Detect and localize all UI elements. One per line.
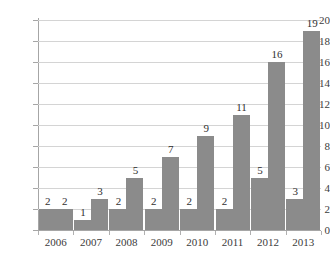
bar-group: 27 [145, 20, 179, 230]
bar-group: 22 [39, 20, 73, 230]
bar [286, 199, 303, 231]
bar-value-label: 19 [301, 18, 323, 29]
bar-value-label: 9 [195, 123, 217, 134]
bar-value-label: 2 [54, 196, 76, 207]
x-axis-category-label: 2013 [276, 236, 330, 248]
x-axis-tick-mark [250, 231, 251, 235]
x-axis-tick-mark [38, 231, 39, 235]
bars-container: 2213252729211516319 [38, 20, 321, 230]
bar [268, 62, 285, 230]
bar-group: 319 [286, 20, 320, 230]
bar-value-label: 3 [89, 186, 111, 197]
bar [233, 115, 250, 231]
bar [74, 220, 91, 231]
bar [39, 209, 56, 230]
bar-group: 516 [251, 20, 285, 230]
x-axis-tick-mark [109, 231, 110, 235]
bar [180, 209, 197, 230]
bar-value-label: 7 [160, 144, 182, 155]
x-axis-tick-mark [73, 231, 74, 235]
bar [56, 209, 73, 230]
bar [145, 209, 162, 230]
x-axis-tick-mark [286, 231, 287, 235]
bar-chart: 02468101214161820 2213252729211516319 20… [0, 0, 330, 254]
bar-group: 25 [109, 20, 143, 230]
bar-group: 29 [180, 20, 214, 230]
x-axis-tick-mark [144, 231, 145, 235]
bar [109, 209, 126, 230]
bar-value-label: 11 [231, 102, 253, 113]
bar [251, 178, 268, 231]
x-axis-tick-mark [215, 231, 216, 235]
bar [91, 199, 108, 231]
bar [216, 209, 233, 230]
x-axis-tick-mark [180, 231, 181, 235]
bar-group: 13 [74, 20, 108, 230]
bar-group: 211 [216, 20, 250, 230]
bar [197, 136, 214, 231]
x-axis-tick-mark [321, 231, 322, 235]
bar [126, 178, 143, 231]
bar [303, 31, 320, 231]
bar-value-label: 16 [266, 49, 288, 60]
bar-value-label: 5 [124, 165, 146, 176]
bar [162, 157, 179, 231]
